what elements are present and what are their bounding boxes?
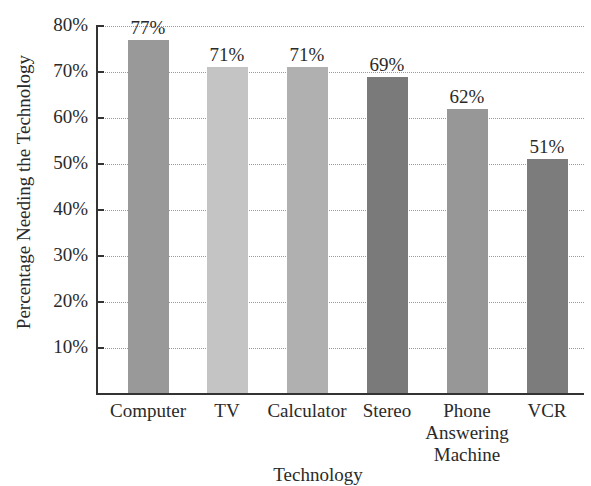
bar-vcr xyxy=(527,159,568,394)
bar-calculator xyxy=(287,67,328,394)
bar-value-label: 51% xyxy=(507,137,587,157)
bar-value-label: 62% xyxy=(427,87,507,107)
y-axis xyxy=(96,27,98,395)
y-tick-label: 60% xyxy=(28,107,88,127)
x-category-label: VCR xyxy=(492,400,591,422)
bar-computer xyxy=(128,40,169,394)
bar-value-label: 71% xyxy=(187,45,267,65)
gridline xyxy=(98,302,584,303)
bar-value-label: 71% xyxy=(267,45,347,65)
y-tick-label: 80% xyxy=(28,15,88,35)
y-tick-label: 40% xyxy=(28,199,88,219)
y-axis-title: Percentage Needing the Technology xyxy=(13,55,35,329)
y-tick-label: 50% xyxy=(28,153,88,173)
y-tick-label: 10% xyxy=(28,337,88,357)
gridline xyxy=(98,164,584,165)
gridline xyxy=(98,118,584,119)
y-tick-label: 20% xyxy=(28,291,88,311)
bar-value-label: 77% xyxy=(108,18,188,38)
gridline xyxy=(98,348,584,349)
bar-stereo xyxy=(367,77,408,394)
bar-tv xyxy=(207,67,248,394)
gridline xyxy=(98,72,584,73)
y-tick-label: 70% xyxy=(28,61,88,81)
gridline xyxy=(98,210,584,211)
x-axis-title: Technology xyxy=(0,464,591,486)
y-tick-label: 30% xyxy=(28,245,88,265)
bar-value-label: 69% xyxy=(347,55,427,75)
x-axis xyxy=(96,393,584,395)
bar-phone-answering-machine xyxy=(447,109,488,394)
gridline xyxy=(98,256,584,257)
